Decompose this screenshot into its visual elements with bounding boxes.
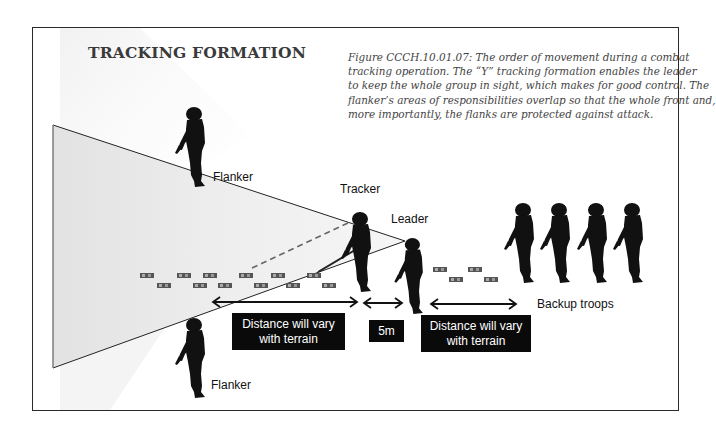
label-backup-troops: Backup troops [537,297,614,311]
caption-line: Figure CCCH.10.01.07: The order of movem… [348,50,668,64]
caption-line: tracking operation. The “Y” tracking for… [348,64,668,78]
distance-arrow-leader [364,298,402,308]
distance-box-line: Distance will vary [242,317,335,332]
distance-box-tracker: Distance will vary with terrain [232,313,345,350]
figure-caption: Figure CCCH.10.01.07: The order of movem… [348,50,668,121]
label-flanker-top: Flanker [213,170,253,184]
distance-box-line: with terrain [447,334,506,349]
distance-box-line: Distance will vary [430,319,523,334]
label-flanker-bottom: Flanker [211,378,251,392]
backup-troops [504,203,643,283]
diagram-title: TRACKING FORMATION [88,43,306,62]
flanker-bottom-soldier [175,318,205,398]
distance-arrow-backup [431,299,516,309]
label-leader: Leader [391,212,428,226]
caption-line: to keep the whole group in sight, which … [348,78,668,92]
caption-line: more importantly, the flanks are protect… [348,107,668,121]
caption-line: flanker’s areas of responsibilities over… [348,93,668,107]
distance-box-leader: 5m [369,320,404,342]
label-tracker: Tracker [340,182,380,196]
distance-box-backup: Distance will vary with terrain [421,315,531,352]
distance-box-line: with terrain [259,332,318,347]
